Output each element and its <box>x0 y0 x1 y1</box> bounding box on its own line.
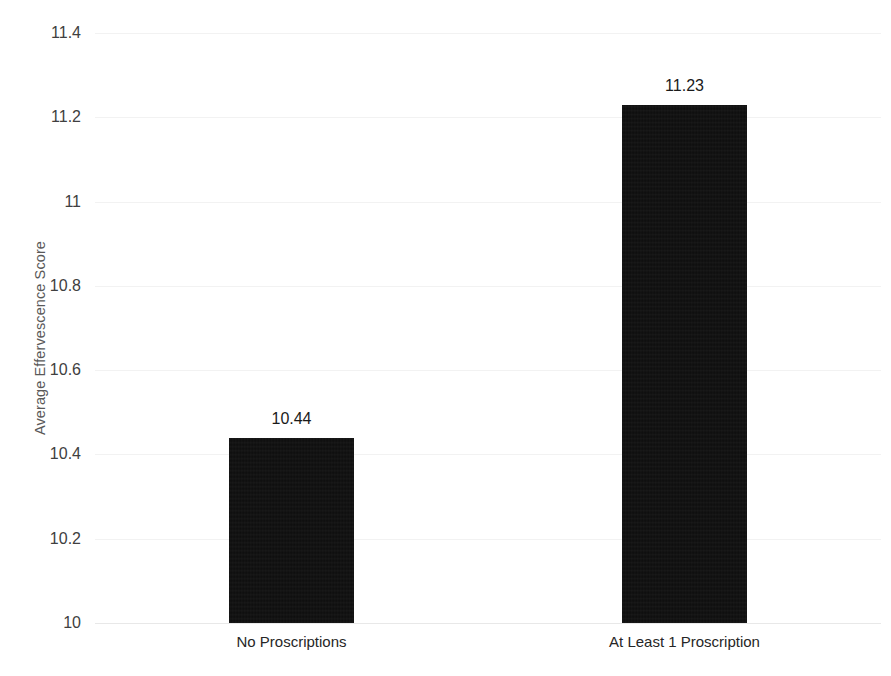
x-axis-category-label: At Least 1 Proscription <box>609 634 760 651</box>
x-axis-category-label: No Proscriptions <box>236 634 346 651</box>
bar[interactable] <box>229 438 354 623</box>
y-axis-tick-label: 11.4 <box>9 25 95 41</box>
y-axis-tick-label: 11.2 <box>9 109 95 125</box>
bar-chart: Average Effervescence Score 11.411.21110… <box>0 0 891 676</box>
y-axis-tick-label: 10 <box>9 615 95 631</box>
gridline <box>95 370 881 371</box>
bar-value-label: 10.44 <box>271 411 311 427</box>
bar[interactable] <box>622 105 747 623</box>
y-axis-tick-labels: 11.411.21110.810.610.410.210 <box>0 33 95 623</box>
y-axis-tick-label: 10.8 <box>9 278 95 294</box>
gridline <box>95 454 881 455</box>
gridline <box>95 286 881 287</box>
gridline <box>95 539 881 540</box>
bar-value-label: 11.23 <box>665 78 704 94</box>
y-axis-tick-label: 10.2 <box>9 531 95 547</box>
gridline <box>95 117 881 118</box>
y-axis-tick-label: 11 <box>9 194 95 210</box>
gridline <box>95 202 881 203</box>
gridline <box>95 623 881 624</box>
y-axis-tick-label: 10.4 <box>9 446 95 462</box>
y-axis-tick-label: 10.6 <box>9 362 95 378</box>
gridline <box>95 33 881 34</box>
x-axis-category-labels: No ProscriptionsAt Least 1 Proscription <box>95 634 881 664</box>
plot-area: 10.4411.23 <box>95 33 881 623</box>
